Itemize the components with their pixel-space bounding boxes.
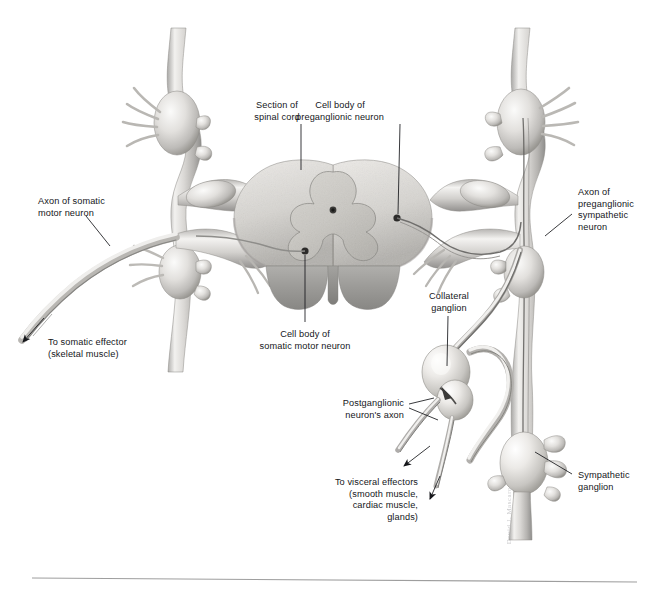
artist-signature: David J. Mascaro bbox=[505, 487, 513, 544]
label-sympathetic-ganglion: Sympathetic ganglion bbox=[578, 470, 658, 493]
label-collateral-ganglion: Collateral ganglion bbox=[414, 291, 484, 314]
spinal-cord-section bbox=[234, 160, 432, 310]
label-cell-body-preganglionic-neuron: Cell body of preganglionic neuron bbox=[275, 100, 405, 123]
bottom-rule bbox=[32, 578, 637, 582]
label-cell-body-somatic-motor-neuron: Cell body of somatic motor neuron bbox=[227, 329, 383, 352]
label-postganglionic-neurons-axon: Postganglionic neuron's axon bbox=[304, 398, 404, 421]
anatomy-figure: Section of spinal cord Cell body of preg… bbox=[0, 0, 667, 600]
label-axon-of-preganglionic-sympathetic-neuron: Axon of preganglionic sympathetic neuron bbox=[578, 187, 664, 233]
collateral-ganglion bbox=[398, 345, 511, 499]
label-to-somatic-effector: To somatic effector (skeletal muscle) bbox=[48, 337, 178, 360]
label-axon-of-somatic-motor-neuron: Axon of somatic motor neuron bbox=[38, 196, 158, 219]
leader-postganglionic-1 bbox=[409, 398, 434, 404]
label-to-visceral-effectors: To visceral effectors (smooth muscle, ca… bbox=[298, 477, 418, 523]
leader-axon-preganglionic bbox=[545, 214, 572, 236]
right-sympathetic-trunk bbox=[485, 28, 578, 540]
leader-axon-somatic-motor bbox=[86, 216, 110, 246]
